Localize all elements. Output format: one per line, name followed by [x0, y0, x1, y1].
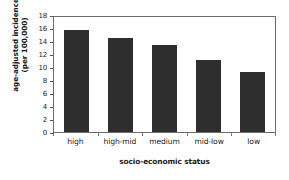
x-axis-tick-mark [275, 133, 276, 136]
bar [196, 60, 221, 132]
y-axis-tick-label: 2 [30, 116, 47, 124]
bar [64, 30, 89, 132]
y-axis-tick-label: 4 [30, 103, 47, 111]
bar [240, 72, 265, 132]
y-axis-tick-label: 16 [30, 25, 47, 33]
x-axis-tick-label: medium [142, 137, 186, 146]
x-axis-tick-labels: highhigh-midmediummid-lowlow [53, 137, 276, 146]
bar-series [54, 17, 275, 132]
y-axis-tick-labels: 024681012141618 [30, 16, 47, 133]
x-axis-tick-mark [142, 133, 143, 136]
bar-chart-figure: age-adjusted incidence (per 100,000) 024… [0, 0, 289, 180]
x-axis-tick-label: mid-low [187, 137, 231, 146]
y-axis-tick-label: 18 [30, 12, 47, 20]
x-axis-tick-mark [98, 133, 99, 136]
y-axis-tick-label: 10 [30, 64, 47, 72]
x-axis-tick-label: high-mid [98, 137, 142, 146]
y-axis-tick-label: 8 [30, 77, 47, 85]
y-axis-title-line-1: age-adjusted incidence [11, 0, 21, 92]
x-axis-tick-mark [187, 133, 188, 136]
bar [152, 45, 177, 132]
x-axis-tick-marks [53, 133, 276, 136]
x-axis-title: socio-economic status [53, 157, 276, 166]
x-axis-tick-label: low [232, 137, 276, 146]
x-axis-tick-mark [53, 133, 54, 136]
y-axis-tick-label: 6 [30, 90, 47, 98]
x-axis-tick-mark [231, 133, 232, 136]
bar [108, 38, 133, 132]
x-axis-tick-label: high [53, 137, 97, 146]
y-axis-tick-label: 12 [30, 51, 47, 59]
y-axis-tick-label: 14 [30, 38, 47, 46]
y-axis-title-line-2: (per 100,000) [20, 18, 30, 73]
plot-area [53, 16, 276, 133]
y-axis-tick-label: 0 [30, 129, 47, 137]
